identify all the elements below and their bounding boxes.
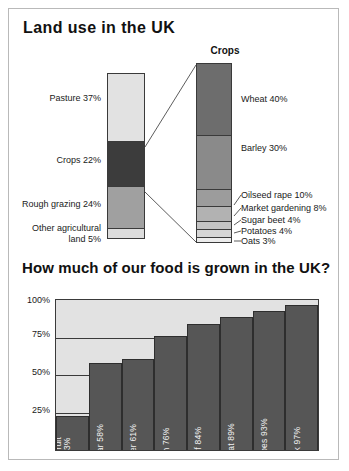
bar-label-butter: Butter 61%: [128, 424, 138, 450]
bar-column-sugar: Sugar 58%: [89, 300, 122, 450]
segment-oilseed-rape: [197, 189, 231, 207]
bar-label-fruit: Fruit 23%: [56, 437, 72, 450]
label-oilseed-rape: Oilseed rape 10%: [241, 190, 313, 201]
ytick-75: 75%: [10, 329, 50, 339]
label-pasture: Pasture 37%: [13, 93, 101, 104]
bar-column-fruit: Fruit 23%: [56, 300, 89, 450]
segment-potatoes: [197, 229, 231, 237]
food-grown-title: How much of our food is grown in the UK?: [22, 259, 330, 276]
ytick-25: 25%: [10, 405, 50, 415]
land-use-title: Land use in the UK: [23, 19, 175, 37]
segment-wheat: [197, 64, 231, 135]
crops-stacked-bar: [196, 63, 232, 243]
bar-label-sugar: Sugar 58%: [95, 424, 105, 450]
land-use-figure: Land use in the UK Crops Pasture 37% Cro…: [9, 9, 340, 255]
segment-pasture: [108, 74, 144, 141]
segment-crops: [108, 141, 144, 185]
bar-wheat: Wheat 89%: [220, 317, 253, 451]
bar-column-wheat: Wheat 89%: [220, 300, 253, 450]
segment-market-gardening: [197, 206, 231, 220]
bar-column-beef: Beef 84%: [187, 300, 220, 450]
bar-label-beef: Beef 84%: [193, 427, 203, 450]
bar-label-potatoes: Potatoes 93%: [259, 418, 269, 450]
bar-column-fish: Fish 76%: [154, 300, 187, 450]
segment-oats: [197, 237, 231, 242]
bar-label-pork: Pork 97%: [292, 427, 302, 450]
bar-column-pork: Pork 97%: [285, 300, 318, 450]
segment-rough-grazing: [108, 186, 144, 229]
bar-fruit: Fruit 23%: [56, 416, 89, 451]
segment-barley: [197, 135, 231, 188]
label-other-agricultural-land: Other agricultural land 5%: [13, 223, 101, 245]
label-crops: Crops 22%: [13, 155, 101, 166]
land-use-stacked-bar: [107, 73, 145, 239]
segment-sugar-beet: [197, 221, 231, 229]
crops-heading: Crops: [194, 45, 256, 56]
segment-other-agricultural-land: [108, 228, 144, 238]
bar-column-butter: Butter 61%: [122, 300, 155, 450]
label-market-gardening: Market gardening 8%: [241, 203, 327, 214]
ytick-50: 50%: [10, 367, 50, 377]
bar-sugar: Sugar 58%: [89, 363, 122, 450]
food-grown-plot-area: Fruit 23% Sugar 58% Butter 61% Fish 76%: [55, 299, 319, 451]
bar-pork: Pork 97%: [285, 305, 318, 451]
label-wheat: Wheat 40%: [241, 94, 288, 105]
bar-potatoes: Potatoes 93%: [253, 311, 286, 451]
bar-butter: Butter 61%: [122, 359, 155, 451]
label-oats: Oats 3%: [241, 236, 276, 247]
label-rough-grazing: Rough grazing 24%: [13, 199, 101, 210]
bar-label-fish: Fish 76%: [161, 427, 171, 450]
bar-column-potatoes: Potatoes 93%: [253, 300, 286, 450]
label-barley: Barley 30%: [241, 143, 287, 154]
bar-series: Fruit 23% Sugar 58% Butter 61% Fish 76%: [56, 300, 318, 450]
bar-beef: Beef 84%: [187, 324, 220, 450]
bar-fish: Fish 76%: [154, 336, 187, 450]
food-grown-figure: How much of our food is grown in the UK?…: [9, 255, 340, 461]
label-sugar-beet: Sugar beet 4%: [241, 215, 301, 226]
page-frame: Land use in the UK Crops Pasture 37% Cro…: [8, 8, 339, 460]
bar-label-wheat: Wheat 89%: [226, 423, 236, 450]
ytick-100: 100%: [10, 295, 50, 305]
